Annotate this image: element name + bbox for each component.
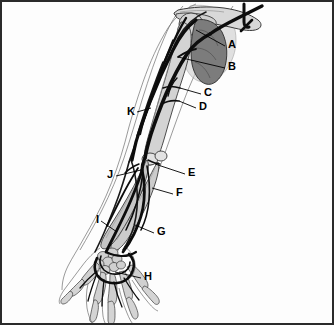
leader-line-C <box>180 88 201 94</box>
label-g: G <box>157 226 166 237</box>
label-k: K <box>127 106 135 117</box>
anatomical-figure: A B C D E F G H I J K <box>0 0 334 325</box>
label-f: F <box>176 187 183 198</box>
leader-line-E <box>155 164 185 174</box>
label-d: D <box>199 101 207 112</box>
label-i: I <box>96 214 99 225</box>
label-b: B <box>228 61 236 72</box>
label-e: E <box>188 167 195 178</box>
upper-limb-diagram <box>0 0 334 325</box>
label-c: C <box>204 87 212 98</box>
leader-line-F <box>152 188 173 194</box>
label-j: J <box>107 169 113 180</box>
label-h: H <box>144 271 152 282</box>
label-a: A <box>228 39 236 50</box>
